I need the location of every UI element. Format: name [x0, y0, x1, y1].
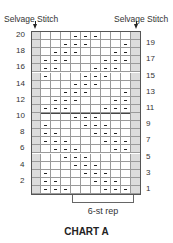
chart-row-14 — [32, 81, 140, 89]
stitch-cell — [51, 178, 61, 186]
stitch-cell — [101, 105, 111, 113]
stitch-cell — [111, 162, 121, 170]
stitch-cell — [101, 113, 111, 121]
stitch-cell — [51, 137, 61, 145]
stitch-cell — [81, 48, 91, 56]
stitch-cell — [51, 105, 61, 113]
purl-dash-icon — [64, 157, 67, 158]
stitch-cell — [91, 170, 101, 178]
selvage-cell — [32, 56, 41, 64]
row-number: 8 — [20, 127, 24, 136]
chart-row-6 — [32, 145, 140, 153]
stitch-cell — [41, 121, 51, 129]
repeat-label: 6-st rep — [72, 206, 134, 216]
row-number: 20 — [16, 30, 25, 39]
stitch-cell — [91, 145, 101, 153]
stitch-cell — [81, 81, 91, 89]
purl-dash-icon — [54, 141, 57, 142]
stitch-cell — [81, 73, 91, 81]
stitch-cell — [121, 154, 131, 162]
purl-dash-icon — [84, 165, 87, 166]
selvage-cell — [131, 64, 140, 72]
purl-dash-icon — [64, 60, 67, 61]
stitch-cell — [91, 40, 101, 48]
purl-dash-icon — [64, 149, 67, 150]
stitch-cell — [61, 162, 71, 170]
selvage-cell — [32, 178, 41, 186]
purl-dash-icon — [84, 157, 87, 158]
stitch-cell — [111, 154, 121, 162]
stitch-cell — [61, 64, 71, 72]
purl-dash-icon — [44, 141, 47, 142]
stitch-cell — [111, 40, 121, 48]
stitch-cell — [91, 73, 101, 81]
stitch-cell — [111, 137, 121, 145]
stitch-cell — [81, 32, 91, 40]
stitch-cell — [51, 121, 61, 129]
selvage-cell — [32, 170, 41, 178]
purl-dash-icon — [124, 189, 127, 190]
stitch-cell — [61, 178, 71, 186]
stitch-cell — [91, 89, 101, 97]
row-number: 3 — [146, 168, 150, 177]
purl-dash-icon — [114, 189, 117, 190]
purl-dash-icon — [64, 100, 67, 101]
chart-row-10 — [32, 113, 140, 121]
stitch-cell — [41, 81, 51, 89]
purl-dash-icon — [74, 44, 77, 45]
stitch-cell — [81, 64, 91, 72]
row-number: 10 — [16, 111, 25, 120]
selvage-cell — [131, 89, 140, 97]
stitch-cell — [101, 178, 111, 186]
purl-dash-icon — [124, 52, 127, 53]
stitch-cell — [111, 32, 121, 40]
stitch-cell — [61, 121, 71, 129]
purl-dash-icon — [44, 125, 47, 126]
chart-row-5 — [32, 154, 140, 162]
selvage-cell — [131, 162, 140, 170]
stitch-cell — [61, 129, 71, 137]
row-number: 12 — [16, 95, 25, 104]
selvage-cell — [131, 105, 140, 113]
stitch-cell — [111, 73, 121, 81]
selvage-cell — [32, 64, 41, 72]
stitch-cell — [61, 32, 71, 40]
arrow-down-icon — [33, 24, 37, 29]
chart-row-2 — [32, 178, 140, 186]
stitch-cell — [41, 113, 51, 121]
purl-dash-icon — [94, 181, 97, 182]
stitch-cell — [51, 162, 61, 170]
stitch-cell — [51, 40, 61, 48]
purl-dash-icon — [54, 181, 57, 182]
stitch-cell — [71, 97, 81, 105]
purl-dash-icon — [44, 76, 47, 77]
stitch-cell — [121, 89, 131, 97]
selvage-cell — [32, 129, 41, 137]
row-number: 17 — [146, 54, 155, 63]
stitch-cell — [121, 105, 131, 113]
chart-row-13 — [32, 89, 140, 97]
stitch-cell — [111, 121, 121, 129]
repeat-bracket — [72, 195, 134, 203]
stitch-cell — [41, 162, 51, 170]
selvage-cell — [131, 73, 140, 81]
purl-dash-icon — [114, 149, 117, 150]
selvage-cell — [131, 56, 140, 64]
row-number: 9 — [146, 119, 150, 128]
stitch-cell — [61, 56, 71, 64]
row-number: 14 — [16, 79, 25, 88]
purl-dash-icon — [94, 84, 97, 85]
stitch-cell — [111, 81, 121, 89]
purl-dash-icon — [84, 44, 87, 45]
purl-dash-icon — [114, 108, 117, 109]
purl-dash-icon — [114, 60, 117, 61]
stitch-cell — [91, 137, 101, 145]
purl-dash-icon — [54, 108, 57, 109]
purl-dash-icon — [104, 108, 107, 109]
selvage-cell — [32, 81, 41, 89]
stitch-cell — [91, 113, 101, 121]
selvage-cell — [32, 162, 41, 170]
stitch-cell — [91, 48, 101, 56]
purl-dash-icon — [94, 173, 97, 174]
stitch-cell — [111, 97, 121, 105]
